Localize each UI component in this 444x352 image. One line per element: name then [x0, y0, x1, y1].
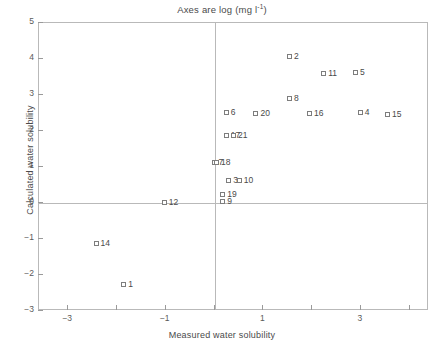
x-ticklabel: −3: [47, 313, 87, 323]
square-marker-icon: [307, 111, 312, 116]
x-tick-3: [360, 305, 361, 310]
x-ticklabel: 3: [340, 313, 380, 323]
data-point-label: 4: [365, 107, 370, 118]
square-marker-icon: [94, 241, 99, 246]
square-marker-icon: [121, 282, 126, 287]
square-marker-icon: [237, 178, 242, 183]
vertical-reference-line: [215, 23, 216, 309]
y-tick-3: [38, 94, 43, 95]
y-axis-label: Calculated water solubility: [25, 10, 35, 310]
square-marker-icon: [224, 110, 229, 115]
data-point-label: 15: [392, 109, 401, 120]
data-point-label: 12: [169, 197, 178, 208]
data-point-label: 16: [314, 108, 323, 119]
x-tick-4: [409, 305, 410, 310]
y-tick-neg1: [38, 238, 43, 239]
data-point-label: 18: [221, 157, 230, 168]
y-tick-0: [38, 202, 43, 203]
chart-title-text: Axes are log (mg l: [177, 4, 257, 15]
square-marker-icon: [353, 70, 358, 75]
chart-title-tail: ): [263, 4, 266, 15]
data-point-label: 11: [328, 68, 337, 79]
square-marker-icon: [162, 200, 167, 205]
y-tick-5: [38, 22, 43, 23]
chart-title: Axes are log (mg l-1): [0, 3, 444, 15]
x-ticklabel: 1: [242, 313, 282, 323]
data-point-label: 10: [244, 175, 253, 186]
plot-area: 2115862016415172171831019912141: [38, 22, 428, 310]
x-tick-2: [311, 305, 312, 310]
x-tick-neg3: [67, 305, 68, 310]
x-tick-neg2: [116, 305, 117, 310]
y-tick-neg3: [38, 310, 43, 311]
x-tick-1: [262, 305, 263, 310]
square-marker-icon: [287, 96, 292, 101]
x-tick-0: [214, 305, 215, 310]
square-marker-icon: [253, 111, 258, 116]
data-point-label: 6: [231, 107, 236, 118]
square-marker-icon: [287, 54, 292, 59]
y-tick-neg2: [38, 274, 43, 275]
data-point-label: 21: [238, 130, 247, 141]
data-point-label: 9: [227, 196, 232, 207]
square-marker-icon: [321, 71, 326, 76]
scatter-plot-figure: Axes are log (mg l-1) 211586201641517217…: [0, 0, 444, 352]
data-point-label: 5: [360, 67, 365, 78]
y-tick-2: [38, 130, 43, 131]
data-point-label: 1: [128, 279, 133, 290]
y-tick-1: [38, 166, 43, 167]
square-marker-icon: [220, 199, 225, 204]
horizontal-reference-line: [39, 203, 427, 204]
square-marker-icon: [385, 112, 390, 117]
x-tick-neg1: [165, 305, 166, 310]
x-ticklabel: −1: [145, 313, 185, 323]
square-marker-icon: [358, 110, 363, 115]
data-point-label: 2: [294, 51, 299, 62]
square-marker-icon: [214, 160, 219, 165]
square-marker-icon: [231, 133, 236, 138]
square-marker-icon: [224, 133, 229, 138]
square-marker-icon: [226, 178, 231, 183]
x-axis-label: Measured water solubility: [0, 330, 444, 340]
data-point-label: 20: [260, 108, 269, 119]
data-point-label: 8: [294, 93, 299, 104]
square-marker-icon: [220, 192, 225, 197]
data-point-label: 14: [101, 238, 110, 249]
y-tick-4: [38, 58, 43, 59]
